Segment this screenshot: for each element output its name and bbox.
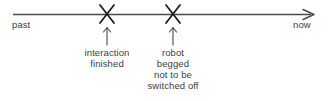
event-label-1-line-1: interaction	[85, 47, 130, 58]
timeline-diagram: past now interaction finished robot begg…	[0, 0, 330, 101]
timeline-past-label: past	[12, 19, 30, 30]
event-connector-2-up-arrow-icon	[170, 28, 177, 46]
event-label-2: robot begged not to be switched off	[147, 47, 198, 91]
timeline-now-label: now	[293, 19, 311, 30]
event-label-2-line-2: begged	[147, 58, 198, 69]
event-label-2-line-3: not to be	[147, 69, 198, 80]
event-connector-1-up-arrow-icon	[104, 28, 111, 46]
event-label-1-line-2: finished	[85, 58, 130, 69]
event-label-1: interaction finished	[85, 47, 130, 69]
event-label-2-line-1: robot	[147, 47, 198, 58]
event-label-2-line-4: switched off	[147, 80, 198, 91]
